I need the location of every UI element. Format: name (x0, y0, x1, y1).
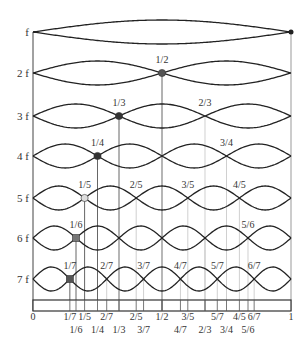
axis-fraction-labels: 011/71/52/72/51/23/55/74/56/71/61/41/33/… (31, 311, 294, 335)
node-label: 3/4 (220, 137, 233, 148)
harmonic-label: f (25, 26, 29, 38)
harmonic-label: 6 f (17, 232, 29, 244)
harmonic-label: 2 f (17, 67, 29, 79)
node-label: 1/3 (113, 97, 126, 108)
node-label: 5/7 (211, 260, 224, 271)
axis-label: 1/2 (156, 311, 169, 322)
harmonic-labels: f2 f3 f4 f5 f6 f7 f (17, 26, 29, 285)
axis-label: 2/5 (130, 311, 143, 322)
axis-label: 3/7 (137, 324, 150, 335)
harmonic-label: 4 f (17, 150, 29, 162)
node-label: 5/6 (242, 219, 255, 230)
axis-label: 4/5 (233, 311, 246, 322)
axis-label: 2/7 (100, 311, 113, 322)
axis-label: 5/7 (211, 311, 224, 322)
axis-label: 4/7 (174, 324, 187, 335)
harmonics-diagram: f2 f3 f4 f5 f6 f7 f 1/21/32/31/43/41/52/… (0, 0, 305, 348)
node-label: 1/5 (78, 179, 91, 190)
node-label: 4/7 (174, 260, 187, 271)
axis-label: 1/4 (91, 324, 104, 335)
node-label: 2/5 (130, 179, 143, 190)
node-label: 1/7 (63, 260, 76, 271)
axis-label-start: 0 (31, 311, 36, 322)
node-label: 1/6 (70, 219, 83, 230)
axis-label: 2/3 (199, 324, 212, 335)
axis-label: 6/7 (248, 311, 261, 322)
harmonic-label: 7 f (17, 273, 29, 285)
axis-label: 1/3 (113, 324, 126, 335)
axis-label: 1/5 (78, 311, 91, 322)
harmonic-label: 5 f (17, 192, 29, 204)
axis-label-end: 1 (289, 311, 294, 322)
node-label: 2/7 (100, 260, 113, 271)
node-label: 6/7 (248, 260, 261, 271)
node-label: 3/5 (181, 179, 194, 190)
node-label: 2/3 (199, 97, 212, 108)
axis-label: 1/6 (70, 324, 83, 335)
node-label: 1/4 (91, 137, 104, 148)
axis-label: 5/6 (242, 324, 255, 335)
axis-label: 3/5 (181, 311, 194, 322)
node-label: 4/5 (233, 179, 246, 190)
axis-label: 3/4 (220, 324, 233, 335)
node-label: 3/7 (137, 260, 150, 271)
harmonic-label: 3 f (17, 110, 29, 122)
node-label: 1/2 (156, 54, 169, 65)
fraction-bar (33, 300, 291, 311)
axis-label: 1/7 (63, 311, 76, 322)
